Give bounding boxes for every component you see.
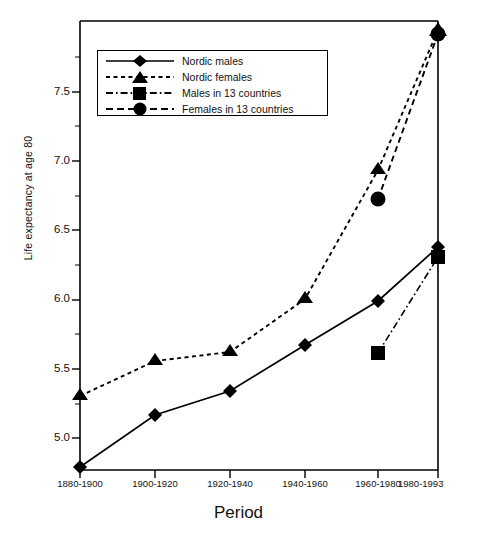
legend-entry-males-13-countries: Males in 13 countries bbox=[98, 85, 329, 101]
legend-entry-nordic-males: Nordic males bbox=[98, 53, 329, 69]
legend-label-females-13-countries: Females in 13 countries bbox=[182, 103, 293, 115]
legend-key-males-13-countries bbox=[98, 85, 182, 101]
legend-entry-nordic-females: Nordic females bbox=[98, 69, 329, 85]
series-females-13-countries bbox=[371, 27, 446, 207]
legend-key-nordic-females bbox=[98, 69, 182, 85]
legend: Nordic males Nordic females Males in 13 … bbox=[97, 50, 328, 116]
x-major-ticks bbox=[80, 470, 438, 478]
series-nordic-males bbox=[73, 240, 445, 474]
chart-figure: Life expectancy at age 80 Period 7.5 7.0… bbox=[0, 0, 477, 544]
series-males-13-countries bbox=[371, 250, 445, 360]
legend-entry-females-13-countries: Females in 13 countries bbox=[98, 101, 329, 117]
legend-label-males-13-countries: Males in 13 countries bbox=[182, 87, 281, 99]
legend-label-nordic-females: Nordic females bbox=[182, 71, 252, 83]
series-females-13-countries-markers bbox=[371, 27, 446, 207]
series-nordic-males-markers bbox=[73, 240, 445, 474]
legend-label-nordic-males: Nordic males bbox=[182, 55, 243, 67]
legend-key-females-13-countries bbox=[98, 101, 182, 117]
series-males-13-countries-markers bbox=[371, 250, 445, 360]
legend-key-nordic-males bbox=[98, 53, 182, 69]
